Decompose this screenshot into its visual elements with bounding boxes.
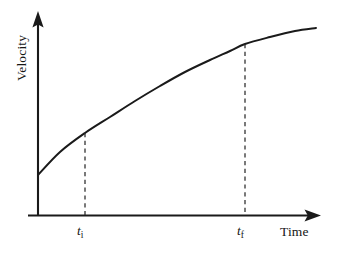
y-axis-title-text: Velocity [14, 35, 30, 81]
y-axis-title: Velocity [0, 0, 44, 116]
x-axis [28, 210, 321, 222]
velocity-curve [38, 28, 316, 175]
velocity-time-figure: Velocity Time ti tf [0, 0, 338, 253]
tick-label-t-initial-subscript: i [81, 230, 84, 240]
tick-label-t-final: tf [237, 223, 244, 240]
tick-label-t-final-subscript: f [241, 230, 244, 240]
plot-canvas [0, 0, 338, 253]
x-axis-title: Time [280, 224, 309, 240]
tick-label-t-initial: ti [77, 223, 83, 240]
